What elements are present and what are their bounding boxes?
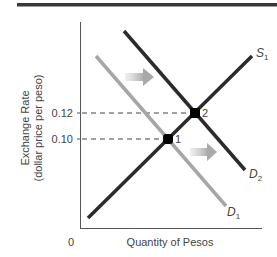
origin-label: 0 <box>68 236 74 248</box>
demand-curve-d1 <box>96 56 226 206</box>
y-tick-label-010: 0.10 <box>52 133 73 145</box>
curve-label-d1-sub: 1 <box>236 212 241 221</box>
y-axis-title-line1: Exchange Rate <box>19 90 31 165</box>
equilibrium-point-1 <box>163 134 173 144</box>
shift-arrow-lower <box>190 143 217 161</box>
shift-arrow-upper <box>125 68 154 86</box>
equilibrium-label-2: 2 <box>202 107 208 119</box>
curve-label-d1: D1 <box>227 205 241 221</box>
top-rule <box>17 3 277 7</box>
curve-label-d1-main: D <box>227 205 236 219</box>
exchange-rate-chart: 0.12 0.10 0 Quantity of Pesos Exchange R… <box>0 0 277 257</box>
demand-curve-d2 <box>124 31 245 170</box>
y-tick-label-012: 0.12 <box>52 107 73 119</box>
y-axis-title-line2: (dollar price per peso) <box>32 75 44 182</box>
curve-label-s1: S1 <box>256 46 269 62</box>
curve-label-d2-main: D <box>249 167 258 181</box>
equilibrium-label-1: 1 <box>175 133 181 145</box>
curve-label-s1-sub: 1 <box>264 53 269 62</box>
curve-label-d2-sub: 2 <box>258 174 263 183</box>
curve-label-d2: D2 <box>249 167 263 183</box>
axes <box>77 22 262 229</box>
curve-label-s1-main: S <box>256 46 264 60</box>
equilibrium-point-2 <box>190 108 200 118</box>
x-axis-title: Quantity of Pesos <box>127 236 214 248</box>
